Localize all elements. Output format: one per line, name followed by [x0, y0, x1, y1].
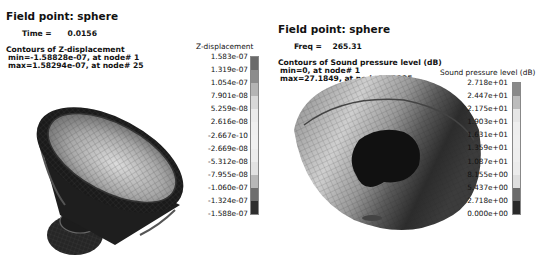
legend-label: -7.955e-08	[194, 168, 248, 181]
colorbar-swatch	[251, 175, 258, 188]
legend-label: 1.903e+01	[454, 115, 508, 128]
legend-label: -1.060e-07	[194, 181, 248, 194]
legend-label: 1.319e-07	[194, 63, 248, 76]
colorbar-swatch	[513, 135, 520, 148]
left-title: Field point: sphere	[6, 11, 143, 22]
right-panel-sound-pressure: Field point: sphere Freq = 265.31 Contou…	[270, 0, 543, 265]
legend-label: 2.447e+01	[454, 89, 508, 102]
legend-label: 8.155e+00	[454, 168, 508, 181]
colorbar-swatch	[251, 83, 258, 96]
right-legend-labels: 2.718e+01 2.447e+01 2.175e+01 1.903e+01 …	[454, 76, 508, 220]
left-header: Field point: sphere Time = 0.0156 Contou…	[6, 11, 143, 70]
legend-label: 2.718e+01	[454, 76, 508, 89]
colorbar-swatch	[251, 57, 258, 70]
left-colorbar	[250, 56, 259, 215]
colorbar-swatch	[513, 83, 520, 96]
legend-label: 2.616e-08	[194, 115, 248, 128]
legend-label: 1.359e+01	[454, 141, 508, 154]
legend-label: 0.000e+00	[454, 207, 508, 220]
time-value: 0.0156	[68, 29, 97, 38]
legend-label: -2.667e-10	[194, 129, 248, 142]
legend-label: 1.087e+01	[454, 155, 508, 168]
left-legend-labels: 1.583e-07 1.319e-07 1.054e-07 7.901e-08 …	[194, 50, 248, 220]
right-title: Field point: sphere	[278, 24, 442, 35]
colorbar-swatch	[251, 188, 258, 201]
colorbar-swatch	[251, 149, 258, 162]
freq-label: Freq =	[294, 42, 322, 51]
colorbar-swatch	[513, 188, 520, 201]
left-panel-z-displacement: Field point: sphere Time = 0.0156 Contou…	[0, 0, 270, 265]
left-max-line: max=1.58294e-07, at node# 25	[6, 62, 143, 70]
colorbar-swatch	[513, 175, 520, 188]
legend-label: 5.259e-08	[194, 102, 248, 115]
legend-label: -1.588e-07	[194, 207, 248, 220]
colorbar-swatch	[251, 109, 258, 122]
colorbar-swatch	[513, 122, 520, 135]
time-label: Time =	[22, 29, 52, 38]
colorbar-swatch	[513, 109, 520, 122]
colorbar-swatch	[513, 201, 520, 214]
legend-label: 7.901e-08	[194, 89, 248, 102]
freq-value: 265.31	[333, 42, 362, 51]
colorbar-swatch	[513, 162, 520, 175]
legend-label: 5.437e+00	[454, 181, 508, 194]
colorbar-swatch	[251, 135, 258, 148]
colorbar-swatch	[251, 201, 258, 214]
colorbar-swatch	[513, 148, 520, 161]
colorbar-swatch	[251, 70, 258, 83]
legend-label: 2.718e+00	[454, 194, 508, 207]
colorbar-swatch	[251, 96, 258, 109]
colorbar-swatch	[513, 96, 520, 109]
colorbar-swatch	[251, 162, 258, 175]
loudspeaker-model	[20, 95, 195, 260]
legend-label: 1.631e+01	[454, 128, 508, 141]
right-colorbar	[512, 82, 521, 215]
legend-label: -2.669e-08	[194, 142, 248, 155]
legend-label: 2.175e+01	[454, 102, 508, 115]
legend-label: -5.312e-08	[194, 155, 248, 168]
legend-label: 1.054e-07	[194, 76, 248, 89]
legend-label: -1.324e-07	[194, 194, 248, 207]
colorbar-swatch	[251, 122, 258, 135]
legend-label: 1.583e-07	[194, 50, 248, 63]
